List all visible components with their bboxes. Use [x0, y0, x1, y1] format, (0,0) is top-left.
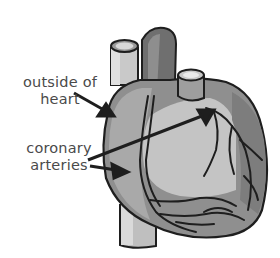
heart-diagram: outside of heart coronary arteries [0, 0, 280, 258]
aorta [178, 70, 204, 101]
label-line: outside of [16, 74, 104, 91]
label-coronary-arteries: coronary arteries [24, 140, 94, 174]
label-outside-of-heart: outside of heart [16, 74, 104, 108]
label-line: heart [16, 91, 104, 108]
label-line: coronary [24, 140, 94, 157]
label-line: arteries [24, 157, 94, 174]
superior-vena-cava [111, 40, 138, 85]
heart-illustration [0, 0, 280, 258]
